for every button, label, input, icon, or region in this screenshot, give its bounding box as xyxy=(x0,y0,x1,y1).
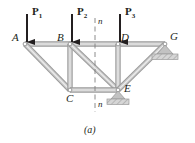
joint-label-E: E xyxy=(124,83,131,94)
joint-pin-B xyxy=(68,42,72,46)
joint-pin-A xyxy=(23,42,27,46)
pin-ground-hatch-E xyxy=(107,99,129,105)
diagonal-BE-highlight xyxy=(70,44,118,90)
load-label-P1: P1 xyxy=(32,6,42,20)
diagonal-AC-highlight xyxy=(25,44,70,90)
figure-caption: (a) xyxy=(84,124,96,135)
load-label-subscript-P3: 3 xyxy=(132,12,136,20)
load-label-symbol-P1: P xyxy=(32,5,39,17)
joint-pin-D xyxy=(116,42,120,46)
diagonal-AC xyxy=(25,44,70,90)
joint-label-B: B xyxy=(57,32,64,43)
load-label-subscript-P1: 1 xyxy=(39,12,43,20)
roller-ground-hatch-G xyxy=(152,54,178,60)
truss-members xyxy=(25,44,165,90)
load-label-subscript-P2: 2 xyxy=(84,12,88,20)
truss-figure: ABDGCEP1P2P3nn (a) xyxy=(0,0,195,143)
load-label-P2: P2 xyxy=(77,6,87,20)
load-label-symbol-P3: P xyxy=(125,5,132,17)
joint-label-G: G xyxy=(170,31,178,42)
joint-label-A: A xyxy=(12,32,19,43)
section-label-top: n xyxy=(98,17,103,26)
joint-label-D: D xyxy=(121,32,129,43)
diagonal-BE xyxy=(70,44,118,90)
load-label-P3: P3 xyxy=(125,6,135,20)
load-label-symbol-P2: P xyxy=(77,5,84,17)
joint-label-C: C xyxy=(66,93,73,104)
section-label-bottom: n xyxy=(98,100,103,109)
